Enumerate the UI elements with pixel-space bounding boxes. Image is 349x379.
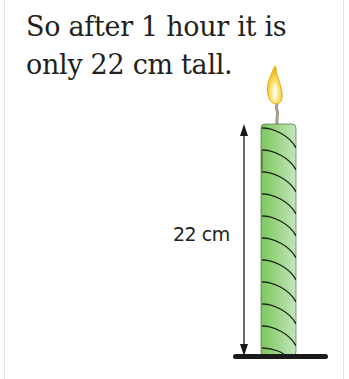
base-surface xyxy=(233,354,328,359)
height-arrow xyxy=(240,124,248,356)
candle-diagram xyxy=(0,0,349,379)
candle-body xyxy=(261,124,296,358)
